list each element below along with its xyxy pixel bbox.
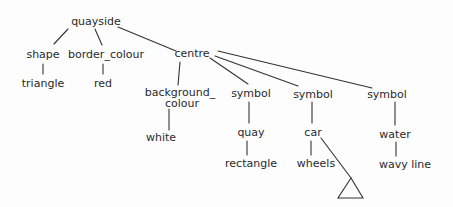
edge-centre-symbol1 bbox=[210, 58, 248, 84]
edge-quayside-shape bbox=[54, 29, 68, 44]
node-shape: shape bbox=[26, 49, 59, 60]
triangle-glyph bbox=[338, 178, 363, 198]
node-wheels: wheels bbox=[297, 158, 335, 169]
edge-quayside-border bbox=[95, 29, 102, 45]
node-triangle: triangle bbox=[22, 78, 64, 89]
node-symbol-1: symbol bbox=[231, 88, 271, 99]
edge-centre-symbol3 bbox=[218, 51, 372, 88]
edges-layer bbox=[0, 0, 453, 207]
node-symbol-2: symbol bbox=[293, 89, 333, 100]
node-car: car bbox=[304, 127, 321, 138]
node-symbol-3: symbol bbox=[367, 89, 407, 100]
node-border-colour: border_colour bbox=[68, 49, 144, 60]
node-rectangle: rectangle bbox=[225, 158, 277, 169]
node-centre: centre bbox=[174, 48, 209, 59]
node-wavy-line: wavy line bbox=[379, 159, 431, 170]
edge-centre-background bbox=[178, 62, 180, 85]
node-water: water bbox=[379, 129, 410, 140]
node-quayside: quayside bbox=[71, 16, 121, 27]
node-background-colour-line2: colour bbox=[165, 98, 199, 109]
node-white: white bbox=[146, 132, 176, 143]
node-quay: quay bbox=[237, 127, 264, 138]
node-red: red bbox=[94, 78, 112, 89]
tree-diagram: quayside shape triangle border_colour re… bbox=[0, 0, 453, 207]
